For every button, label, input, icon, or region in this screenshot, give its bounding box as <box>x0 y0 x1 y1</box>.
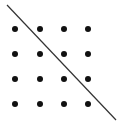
grid-dot-r3-c3 <box>61 76 67 82</box>
grid-dot-r4-c3 <box>61 101 67 107</box>
grid-dot-r4-c4 <box>85 101 91 107</box>
grid-dot-r4-c2 <box>37 101 43 107</box>
grid-dot-r2-c4 <box>85 51 91 57</box>
grid-dot-r1-c2 <box>37 26 43 32</box>
grid-dot-r1-c1 <box>12 26 18 32</box>
grid-dot-r4-c1 <box>12 101 18 107</box>
grid-dot-r3-c4 <box>85 76 91 82</box>
grid-dot-r3-c1 <box>12 76 18 82</box>
grid-dot-r2-c3 <box>61 51 67 57</box>
diagram-canvas <box>0 0 122 129</box>
dot-grid <box>12 26 91 107</box>
grid-dot-r2-c2 <box>37 51 43 57</box>
grid-dot-r2-c1 <box>12 51 18 57</box>
dot-grid-diagram <box>0 0 122 129</box>
grid-dot-r1-c4 <box>85 26 91 32</box>
grid-dot-r3-c2 <box>37 76 43 82</box>
grid-dot-r1-c3 <box>61 26 67 32</box>
